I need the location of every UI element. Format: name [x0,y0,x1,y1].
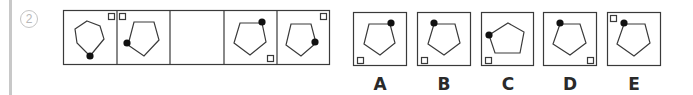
sequence-cell-4 [234,18,274,61]
sequence-cell-1 [75,14,115,60]
pentagon-shape [489,23,524,53]
pentagon-shape [234,23,266,55]
dot-marker [556,19,563,26]
sequence-cell-2 [120,14,160,57]
pentagon-shape [128,22,159,56]
option-b-label[interactable]: B [417,74,471,94]
dot-marker [258,18,265,25]
dot-marker [620,19,627,26]
square-marker [358,58,364,64]
square-marker [109,14,115,20]
pentagon-shape [553,24,586,55]
dot-marker [387,19,394,26]
option-e-figure[interactable] [608,13,661,66]
option-e-label[interactable]: E [607,74,661,94]
dot-marker [430,19,437,26]
dot-marker [485,31,492,38]
pentagon-shape [364,24,395,55]
pentagon-shape [75,21,104,56]
option-c-figure[interactable] [482,13,534,66]
option-d-label[interactable]: D [543,74,597,94]
option-a-label[interactable]: A [353,74,407,94]
square-marker [588,58,594,64]
sequence-cell-5 [286,14,327,57]
square-marker [486,58,492,64]
option-a-figure[interactable] [354,13,407,66]
square-marker [422,58,428,64]
option-b-figure[interactable] [418,13,471,66]
square-marker [268,56,274,62]
square-marker [611,16,617,22]
pentagon-shape [428,24,460,55]
sequence-strip [64,11,330,65]
square-marker [321,14,327,20]
dot-marker [123,39,130,46]
dot-marker [311,38,318,45]
option-d-figure[interactable] [544,13,597,66]
pentagon-shape [286,24,316,56]
pentagon-shape [617,24,650,56]
dot-marker [86,52,93,59]
square-marker [120,14,126,20]
option-c-label[interactable]: C [481,74,535,94]
